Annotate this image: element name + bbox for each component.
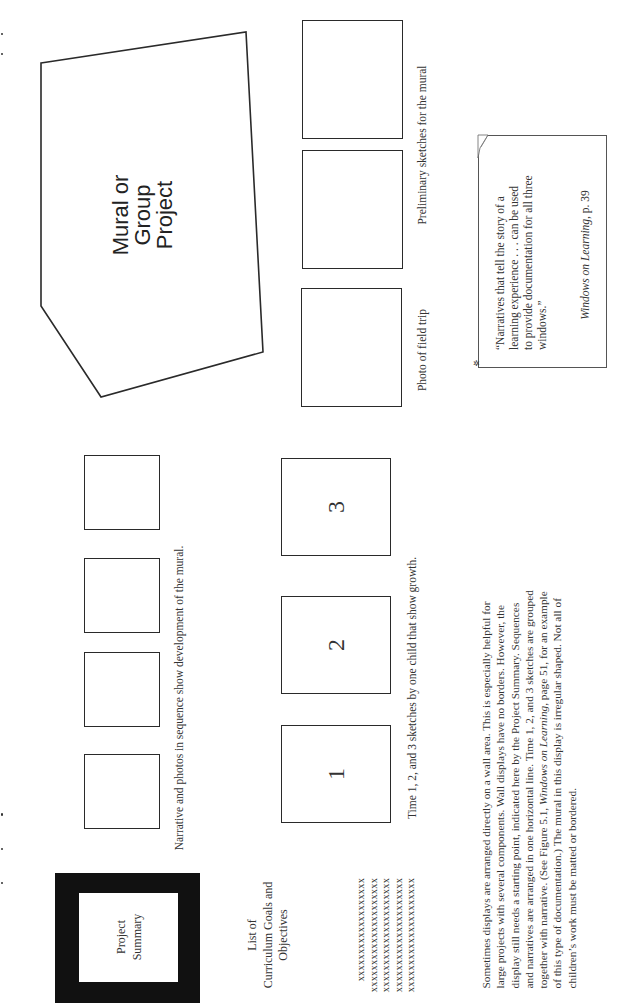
project-summary-label: Project Summary bbox=[100, 905, 158, 969]
growth-label-text: 2 bbox=[323, 639, 350, 651]
growth-label-3: 3 bbox=[321, 492, 351, 522]
paragraph-line: together with narrative. (See Figure 5.1… bbox=[536, 543, 550, 988]
quote-line: learning experience . . . can be used bbox=[507, 150, 521, 350]
body-paragraph: Sometimes displays are arranged directly… bbox=[477, 543, 581, 988]
paragraph-line: and narratives are arranged in one horiz… bbox=[522, 543, 536, 988]
project-summary-line: Summary bbox=[129, 914, 145, 961]
quote-line: “Narratives that tell the story of a bbox=[493, 150, 507, 350]
curriculum-row: xxxxxxxxxxxxxxxxxxxxx bbox=[367, 877, 380, 991]
curriculum-title-line: Objectives bbox=[275, 882, 291, 989]
paragraph-line-start: together with narrative. (See Figure 5.1… bbox=[537, 804, 549, 988]
paragraph-line: large projects with several components. … bbox=[493, 543, 507, 988]
pin-icon: ✲ bbox=[473, 360, 481, 368]
sequence-box-2 bbox=[84, 652, 160, 727]
curriculum-rows: xxxxxxxxxxxxxxxxxxx xxxxxxxxxxxxxxxxxxxx… bbox=[350, 872, 422, 997]
curriculum-title-line: Curriculum Goals and bbox=[260, 882, 276, 989]
sequence-box-4 bbox=[84, 455, 160, 530]
curriculum-row: xxxxxxxxxxxxxxxxxxxxx bbox=[380, 877, 393, 991]
paragraph-book-title: Windows on Learning bbox=[537, 705, 549, 804]
quote-line: to provide documentation for all three bbox=[521, 150, 535, 350]
paragraph-line: display still needs a starting point, in… bbox=[508, 543, 522, 988]
quote-text: “Narratives that tell the story of a lea… bbox=[486, 145, 556, 355]
curriculum-title-line: List of bbox=[244, 882, 260, 989]
sequence-box-3 bbox=[84, 558, 160, 633]
paragraph-line: children’s work must be matted or border… bbox=[565, 543, 579, 988]
sequence-caption-text: Narrative and photos in sequence show de… bbox=[173, 546, 185, 851]
quote-line: windows.” bbox=[535, 150, 549, 350]
growth-caption: Time 1, 2, and 3 sketches by one child t… bbox=[403, 563, 421, 813]
sequence-box-1 bbox=[84, 754, 160, 829]
paragraph-line: Sometimes displays are arranged directly… bbox=[479, 543, 493, 988]
paragraph-line: of this type of documentation.) The mura… bbox=[550, 543, 564, 988]
project-summary-line: Project bbox=[113, 914, 129, 961]
growth-caption-text: Time 1, 2, and 3 sketches by one child t… bbox=[406, 557, 418, 819]
quote-source-title: Windows on Learning bbox=[579, 219, 591, 320]
quote-source: Windows on Learning, p. 39 bbox=[575, 160, 595, 350]
growth-label-1: 1 bbox=[321, 759, 351, 789]
curriculum-row: xxxxxxxxxxxxxxxxxxx bbox=[355, 877, 368, 991]
sequence-caption: Narrative and photos in sequence show de… bbox=[170, 548, 188, 848]
growth-label-text: 1 bbox=[323, 768, 350, 780]
curriculum-row: xxxxxxxxxxxxxxxxxxxxx bbox=[392, 877, 405, 991]
curriculum-title: List of Curriculum Goals and Objectives bbox=[240, 880, 295, 990]
paragraph-line-end: , page 51, for an example bbox=[537, 591, 549, 706]
curriculum-row: xxxxxxxxxxxxxxxxxxxxx bbox=[405, 877, 418, 991]
growth-label-2: 2 bbox=[321, 630, 351, 660]
growth-label-text: 3 bbox=[323, 501, 350, 513]
quote-source-page: , p. 39 bbox=[579, 190, 591, 219]
